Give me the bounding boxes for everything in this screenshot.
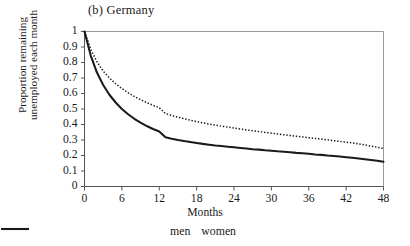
series-line-men	[85, 32, 384, 162]
legend-label-women: women	[201, 224, 240, 239]
y-tick-label: 0.7	[44, 71, 78, 84]
axes	[85, 32, 384, 187]
legend-swatch-women	[0, 224, 30, 234]
x-tick-label: 6	[107, 192, 137, 205]
data-series	[85, 32, 384, 162]
x-tick-label: 24	[219, 192, 249, 205]
y-tick-label: 0.8	[44, 55, 78, 68]
y-tick-label: 0.4	[44, 117, 78, 130]
legend-label-men: men	[170, 224, 194, 239]
y-tick-label: 0.6	[44, 86, 78, 99]
x-tick-label: 36	[294, 192, 324, 205]
y-tick-label: 0.9	[44, 40, 78, 53]
x-tick-label: 30	[256, 192, 286, 205]
y-tick-label: 1	[44, 24, 78, 37]
y-tick-label: 0	[44, 179, 78, 192]
y-tick-label: 0.5	[44, 102, 78, 115]
x-tick-label: 18	[182, 192, 212, 205]
y-tick-label: 0.2	[44, 148, 78, 161]
x-tick-label: 12	[144, 192, 174, 205]
y-tick-label: 0.3	[44, 133, 78, 146]
chart-figure: (b) Germany Proportion remaining unemplo…	[0, 0, 410, 246]
chart-legend: men women	[0, 224, 410, 239]
x-tick-label: 0	[70, 192, 100, 205]
series-line-women	[85, 32, 384, 149]
y-tick-label: 0.1	[44, 164, 78, 177]
x-tick-label: 42	[331, 192, 361, 205]
x-tick-label: 48	[369, 192, 399, 205]
axis-ticks	[81, 32, 384, 191]
